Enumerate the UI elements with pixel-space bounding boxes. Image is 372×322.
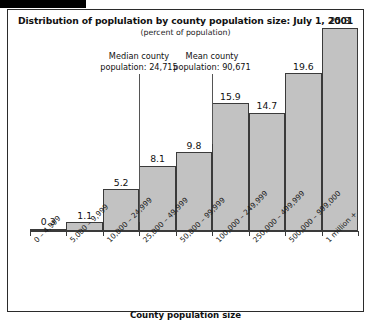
median-county-pointer-line xyxy=(139,74,140,222)
mean-county-label-line1: Mean county xyxy=(173,51,251,62)
x-axis-tick-2 xyxy=(103,231,104,236)
x-axis-tick-8 xyxy=(322,231,323,236)
bar-value-label-9: 25.3 xyxy=(329,15,350,26)
x-axis-tick-3 xyxy=(139,231,140,236)
chart-figure-frame: Distribution of poplulation by county po… xyxy=(7,9,364,312)
median-county-label: Median countypopulation: 24,715 xyxy=(100,51,178,72)
x-axis-tick-0 xyxy=(30,231,31,236)
bar-value-label-8: 19.6 xyxy=(293,61,314,72)
x-axis-tick-4 xyxy=(176,231,177,236)
x-axis-title: County population size xyxy=(8,310,363,320)
bar-value-label-6: 15.9 xyxy=(220,91,241,102)
x-axis-tick-1 xyxy=(66,231,67,236)
x-axis-tick-7 xyxy=(285,231,286,236)
mean-county-label-line2: population: 90,671 xyxy=(173,62,251,73)
median-county-label-line1: Median county xyxy=(100,51,178,62)
plot-area: 0.31.15.28.19.815.914.719.625.3 xyxy=(30,18,358,231)
mean-county-label: Mean countypopulation: 90,671 xyxy=(173,51,251,72)
x-axis-tick-6 xyxy=(249,231,250,236)
bar-value-label-4: 8.1 xyxy=(150,153,165,164)
mean-county-pointer-line xyxy=(212,74,213,144)
x-axis-tick-5 xyxy=(212,231,213,236)
scan-artifact-bar xyxy=(0,0,86,8)
bar-value-label-5: 9.8 xyxy=(187,140,202,151)
median-county-label-line2: population: 24,715 xyxy=(100,62,178,73)
bar-value-label-3: 5.2 xyxy=(114,177,129,188)
bar-value-label-7: 14.7 xyxy=(257,100,278,111)
x-axis-tick-9 xyxy=(358,231,359,236)
